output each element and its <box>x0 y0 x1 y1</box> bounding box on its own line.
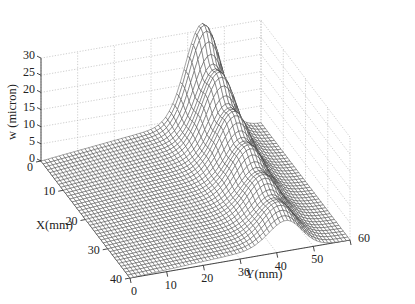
y-tick <box>240 259 241 264</box>
z-tick-label: 5 <box>29 134 35 148</box>
y-tick-label: 20 <box>201 271 213 285</box>
x-tick-label: 10 <box>43 184 55 198</box>
y-tick-label: 10 <box>165 278 177 292</box>
y-tick <box>313 246 314 251</box>
y-tick-label: 0 <box>131 284 137 298</box>
y-tick-label: 50 <box>311 252 323 266</box>
x-tick <box>36 161 41 162</box>
x-tick-label: 40 <box>110 272 122 286</box>
z-tick <box>37 142 41 144</box>
z-tick <box>37 125 41 127</box>
z-tick-label: 30 <box>23 48 35 62</box>
y-tick <box>167 272 168 277</box>
z-tick-label: 15 <box>23 100 35 114</box>
y-tick <box>130 278 131 283</box>
surface-mesh <box>41 23 350 278</box>
x-tick <box>103 249 108 250</box>
x-tick-label: 0 <box>27 160 33 174</box>
z-tick-label: 10 <box>23 117 35 131</box>
y-tick-label: 60 <box>358 231 370 245</box>
x-tick-label: 30 <box>88 243 100 257</box>
x-axis-label: X(mm) <box>36 218 73 232</box>
z-tick <box>37 108 41 110</box>
z-tick <box>37 90 41 92</box>
x-tick <box>58 190 63 191</box>
x-tick <box>81 220 86 221</box>
z-tick-label: 25 <box>23 65 35 79</box>
y-tick <box>277 253 278 258</box>
z-tick-label: 20 <box>23 82 35 96</box>
z-axis-label: w (micron) <box>5 84 19 140</box>
z-tick <box>37 73 41 75</box>
surface-plot: 0510152025300102030400102030405060 w (mi… <box>0 0 415 304</box>
z-tick <box>37 56 41 58</box>
y-tick <box>203 265 204 270</box>
x-tick <box>125 278 130 279</box>
y-axis-label: Y(mm) <box>246 267 283 281</box>
y-tick <box>350 240 351 245</box>
